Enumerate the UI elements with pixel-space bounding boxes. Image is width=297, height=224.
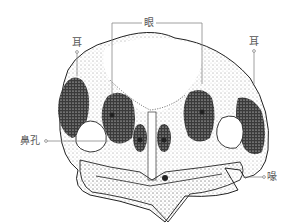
skull-illustration — [0, 0, 297, 224]
eye-socket-right — [184, 90, 215, 142]
nostril-left — [76, 121, 107, 152]
label-nostril: 鼻孔 — [20, 136, 40, 146]
label-eye: 眼 — [144, 18, 154, 28]
label-ear-left: 耳 — [72, 38, 82, 48]
label-ear-right: 耳 — [249, 37, 259, 47]
diagram-stage: 眼 耳 耳 鼻孔 喙 — [0, 0, 297, 224]
nostril-right — [217, 116, 243, 148]
label-beak: 喙 — [267, 172, 277, 182]
